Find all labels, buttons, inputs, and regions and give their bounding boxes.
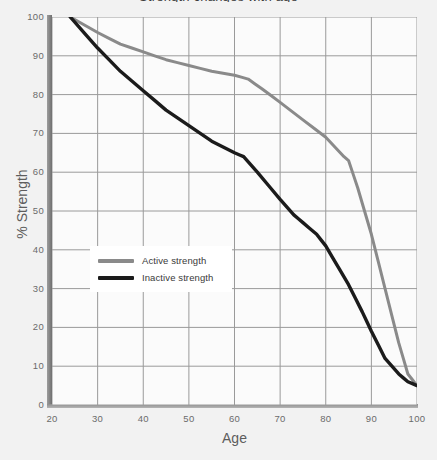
y-axis-tick-label: 20	[4, 321, 44, 332]
plot-svg	[52, 17, 417, 405]
y-axis-tick-label: 0	[4, 399, 44, 410]
x-axis-tick-label: 50	[169, 413, 209, 424]
y-axis-tick-label: 100	[4, 11, 44, 22]
x-axis-tick-label: 90	[351, 413, 391, 424]
plot-area	[52, 17, 417, 405]
series-line	[70, 17, 417, 386]
series-lines	[70, 17, 417, 386]
legend-swatch-inactive	[98, 276, 134, 280]
legend-swatch-active	[98, 259, 134, 263]
y-axis-tick-label: 80	[4, 89, 44, 100]
legend-label-inactive: Inactive strength	[142, 272, 213, 283]
x-axis-tick-label: 70	[260, 413, 300, 424]
y-axis-tick-label: 90	[4, 50, 44, 61]
x-axis-tick-label: 100	[397, 413, 437, 424]
x-axis-tick-label: 20	[32, 413, 72, 424]
x-axis-tick-label: 30	[78, 413, 118, 424]
y-axis-title: % Strength	[14, 134, 30, 274]
legend-item-inactive: Inactive strength	[90, 269, 232, 286]
x-axis-tick-label: 60	[215, 413, 255, 424]
chart-container: Strength changes with age 10090807060504…	[0, 0, 437, 460]
x-axis-tick-label: 80	[306, 413, 346, 424]
y-axis-tick-label: 30	[4, 283, 44, 294]
legend-label-active: Active strength	[142, 255, 206, 266]
legend-item-active: Active strength	[90, 252, 232, 269]
x-axis-title: Age	[52, 430, 417, 446]
y-axis-tick-label: 10	[4, 360, 44, 371]
chart-title: Strength changes with age	[0, 0, 437, 2]
chart-legend: Active strength Inactive strength	[90, 246, 232, 292]
x-axis-tick-label: 40	[123, 413, 163, 424]
